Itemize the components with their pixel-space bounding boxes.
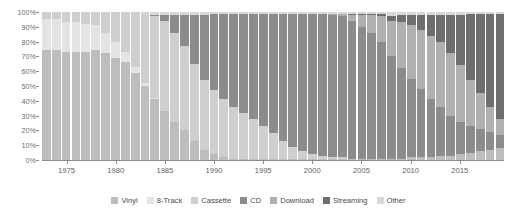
y-axis-tick-label: 90% [4, 22, 36, 31]
bar-column[interactable] [62, 12, 71, 160]
bar-column[interactable] [42, 12, 51, 160]
legend-item[interactable]: Cassette [191, 196, 231, 205]
legend-swatch-icon [323, 197, 330, 204]
bar-column[interactable] [367, 12, 376, 160]
bar-column[interactable] [407, 12, 416, 160]
legend-item-label: Download [280, 196, 314, 205]
bar-column[interactable] [456, 12, 465, 160]
chart-legend: Vinyl8-TrackCassetteCDDownloadStreamingO… [0, 196, 517, 205]
bar-column[interactable] [200, 12, 209, 160]
bar-segment [417, 157, 426, 160]
bar-column[interactable] [52, 12, 61, 160]
bar-column[interactable] [160, 12, 169, 160]
bar-segment [180, 130, 189, 160]
bar-segment [279, 159, 288, 160]
legend-item[interactable]: 8-Track [147, 196, 182, 205]
legend-item[interactable]: Streaming [323, 196, 368, 205]
bar-column[interactable] [387, 12, 396, 160]
bar-column[interactable] [91, 12, 100, 160]
bar-column[interactable] [121, 12, 130, 160]
bar-column[interactable] [210, 12, 219, 160]
bar-segment [269, 14, 278, 134]
bar-segment [486, 132, 495, 150]
legend-item-label: 8-Track [157, 196, 182, 205]
y-axis-tick-label: 70% [4, 52, 36, 61]
bar-column[interactable] [476, 12, 485, 160]
y-axis-tick-label: 0% [4, 156, 36, 165]
legend-item[interactable]: Download [270, 196, 314, 205]
bar-segment [91, 12, 100, 25]
bar-column[interactable] [496, 12, 505, 160]
bar-column[interactable] [417, 12, 426, 160]
bar-column[interactable] [259, 12, 268, 160]
bar-column[interactable] [486, 12, 495, 160]
bar-segment [367, 159, 376, 160]
bar-segment [397, 22, 406, 68]
bar-segment [288, 14, 297, 147]
bar-segment [318, 14, 327, 156]
bar-segment [72, 22, 81, 52]
stacked-bar-chart: 0%10%20%30%40%50%60%70%80%90%100% 197519… [0, 0, 517, 220]
bar-column[interactable] [397, 12, 406, 160]
bar-segment [210, 14, 219, 91]
bar-segment [298, 14, 307, 152]
bar-column[interactable] [298, 12, 307, 160]
bar-segment [279, 141, 288, 159]
bar-segment [210, 90, 219, 154]
bar-column[interactable] [81, 12, 90, 160]
bar-segment [427, 99, 436, 157]
bar-segment [427, 157, 436, 160]
bar-column[interactable] [170, 12, 179, 160]
bar-column[interactable] [111, 12, 120, 160]
bar-column[interactable] [141, 12, 150, 160]
bar-column[interactable] [318, 12, 327, 160]
bar-column[interactable] [308, 12, 317, 160]
bar-segment [387, 56, 396, 159]
bar-segment [407, 79, 416, 157]
bar-column[interactable] [269, 12, 278, 160]
bar-column[interactable] [101, 12, 110, 160]
x-axis-tick-label: 1990 [206, 166, 223, 175]
bar-segment [42, 19, 51, 50]
bar-column[interactable] [436, 12, 445, 160]
bar-column[interactable] [131, 12, 140, 160]
bar-column[interactable] [229, 12, 238, 160]
bar-column[interactable] [446, 12, 455, 160]
bar-column[interactable] [348, 12, 357, 160]
bar-column[interactable] [279, 12, 288, 160]
bar-column[interactable] [466, 12, 475, 160]
bar-column[interactable] [239, 12, 248, 160]
bar-column[interactable] [219, 12, 228, 160]
bar-segment [42, 12, 51, 19]
bar-column[interactable] [72, 12, 81, 160]
bar-column[interactable] [288, 12, 297, 160]
x-axis-tick-mark [312, 160, 313, 164]
bar-segment [476, 129, 485, 151]
bar-segment [229, 14, 238, 107]
legend-item[interactable]: Other [377, 196, 406, 205]
bar-column[interactable] [427, 12, 436, 160]
bar-segment [427, 36, 436, 100]
bar-segment [358, 27, 367, 159]
bar-column[interactable] [338, 12, 347, 160]
x-axis-line [42, 160, 504, 161]
bar-segment [417, 30, 426, 89]
bar-segment [298, 151, 307, 158]
bar-column[interactable] [377, 12, 386, 160]
legend-item[interactable]: CD [240, 196, 261, 205]
bar-segment [397, 159, 406, 160]
bar-column[interactable] [180, 12, 189, 160]
bar-segment [160, 111, 169, 160]
bar-column[interactable] [358, 12, 367, 160]
bar-segment [72, 52, 81, 160]
bar-segment [367, 15, 376, 33]
bar-column[interactable] [249, 12, 258, 160]
bar-column[interactable] [328, 12, 337, 160]
bar-segment [81, 12, 90, 24]
bar-segment [229, 107, 238, 159]
bar-column[interactable] [190, 12, 199, 160]
plot-area [42, 12, 504, 160]
bar-column[interactable] [150, 12, 159, 160]
legend-item[interactable]: Vinyl [111, 196, 137, 205]
bar-segment [200, 80, 209, 150]
